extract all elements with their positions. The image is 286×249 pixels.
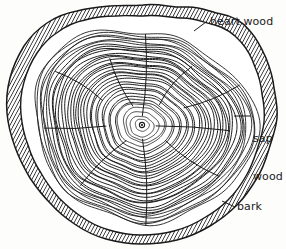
illustration-page: heart wood sap wood bark — [0, 0, 286, 249]
label-sap-wood: sap wood — [253, 108, 283, 208]
label-heart-wood: heart wood — [210, 16, 273, 29]
label-sap-wood-line2: wood — [253, 171, 283, 184]
label-sap-wood-line1: sap — [253, 133, 283, 146]
label-bark: bark — [237, 201, 262, 214]
